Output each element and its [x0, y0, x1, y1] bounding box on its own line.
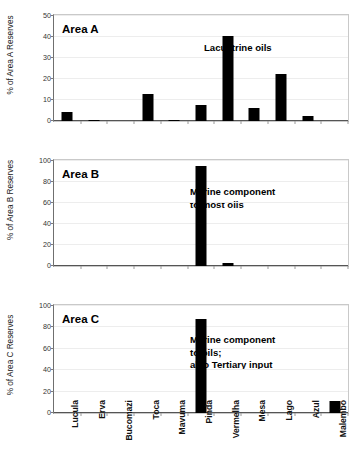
- x-axis-tick-mark: [160, 266, 161, 269]
- gridline: [54, 160, 348, 161]
- y-axis-tick-label: 80: [43, 322, 51, 331]
- y-axis-tick-mark: [51, 223, 54, 224]
- x-axis-tick-mark: [267, 266, 268, 269]
- gridline: [54, 305, 348, 306]
- y-axis-tick-mark: [51, 391, 54, 392]
- y-axis-tick-label: 20: [43, 240, 51, 249]
- y-axis-tick-mark: [51, 99, 54, 100]
- bar-toca: [142, 94, 153, 121]
- gridline: [54, 99, 348, 100]
- x-axis-tick-mark: [187, 121, 188, 124]
- bar-lucula: [62, 112, 73, 121]
- y-axis-tick-mark: [51, 348, 54, 349]
- chart-panel-area-a: % of Area A Reserves Area A Lacustrine o…: [0, 0, 353, 140]
- y-axis-tick-mark: [51, 36, 54, 37]
- y-axis-tick-mark: [51, 265, 54, 266]
- x-axis-tick-mark: [241, 121, 242, 124]
- x-axis-tick-mark: [241, 266, 242, 269]
- y-axis-tick-mark: [51, 369, 54, 370]
- y-axis-title-area-b: % of Area B Reserves: [6, 145, 18, 255]
- x-axis-category-labels: LuculaErvaBucomaziTocaMavumaPindaVermelh…: [53, 400, 349, 475]
- x-axis-label-azul: Azul: [311, 400, 321, 418]
- x-axis-tick-mark: [134, 266, 135, 269]
- x-axis-tick-mark: [294, 266, 295, 269]
- gridline: [54, 15, 348, 16]
- bar-vermelha: [222, 263, 233, 266]
- x-axis-label-lago: Lago: [284, 400, 294, 421]
- x-axis-tick-mark: [107, 266, 108, 269]
- x-axis-tick-mark: [214, 121, 215, 124]
- y-axis-tick-mark: [51, 78, 54, 79]
- y-axis-tick-mark: [51, 181, 54, 182]
- x-axis-label-erva: Erva: [97, 400, 107, 419]
- gridline: [54, 36, 348, 37]
- y-axis-tick-mark: [51, 202, 54, 203]
- y-axis-tick-label: 10: [43, 95, 51, 104]
- x-axis-label-vermelha: Vermelha: [231, 400, 241, 438]
- x-axis-tick-mark: [294, 121, 295, 124]
- x-axis-tick-mark: [160, 121, 161, 124]
- y-axis-tick-label: 20: [43, 74, 51, 83]
- x-axis-tick-mark: [348, 266, 349, 269]
- y-axis-tick-label: 40: [43, 219, 51, 228]
- x-axis-tick-mark: [348, 121, 349, 124]
- x-axis-label-mavuma: Mavuma: [177, 400, 187, 434]
- chart-panel-area-b: % of Area B Reserves Area B Marine compo…: [0, 145, 353, 285]
- y-axis-tick-label: 80: [43, 177, 51, 186]
- y-axis-tick-label: 60: [43, 198, 51, 207]
- gridline: [54, 57, 348, 58]
- y-axis-tick-label: 50: [43, 11, 51, 20]
- x-axis-tick-mark: [80, 121, 81, 124]
- y-axis-tick-mark: [51, 57, 54, 58]
- x-axis-label-toca: Toca: [151, 400, 161, 419]
- bar-pinda: [196, 319, 207, 413]
- bar-mesa: [249, 108, 260, 121]
- y-axis-tick-mark: [51, 160, 54, 161]
- panel-label-area-a: Area A: [62, 23, 99, 35]
- bar-vermelha: [222, 36, 233, 121]
- gridline: [54, 78, 348, 79]
- plot-area-area-b: Area B Marine component to most oils 020…: [53, 159, 349, 267]
- x-axis-tick-mark: [321, 266, 322, 269]
- x-axis-tick-mark: [107, 121, 108, 124]
- x-axis-tick-mark: [134, 121, 135, 124]
- annotation-area-a: Lacustrine oils: [204, 42, 272, 55]
- x-axis-tick-mark: [267, 121, 268, 124]
- x-axis-tick-mark: [214, 266, 215, 269]
- bar-pinda: [196, 166, 207, 266]
- bar-mavuma: [169, 120, 180, 122]
- x-axis-label-malembo: Malembo: [338, 400, 348, 437]
- x-axis-tick-mark: [187, 266, 188, 269]
- panel-label-area-c: Area C: [62, 313, 99, 325]
- y-axis-tick-mark: [51, 305, 54, 306]
- bar-azul: [302, 116, 313, 121]
- plot-area-area-c: Area C Marine component to oils; also Te…: [53, 304, 349, 414]
- y-axis-tick-label: 30: [43, 53, 51, 62]
- y-axis-tick-label: 20: [43, 386, 51, 395]
- stacked-bar-panel-figure: % of Area A Reserves Area A Lacustrine o…: [0, 0, 353, 475]
- plot-area-area-a: Area A Lacustrine oils 01020304050: [53, 14, 349, 122]
- y-axis-tick-label: 100: [39, 301, 51, 310]
- y-axis-tick-label: 40: [43, 32, 51, 41]
- y-axis-tick-mark: [51, 15, 54, 16]
- x-axis-tick-mark: [321, 121, 322, 124]
- y-axis-tick-label: 100: [39, 156, 51, 165]
- y-axis-tick-mark: [51, 244, 54, 245]
- x-axis-label-pinda: Pinda: [204, 400, 214, 423]
- y-axis-tick-label: 40: [43, 365, 51, 374]
- y-axis-title-area-c: % of Area C Reserves: [6, 300, 18, 410]
- x-axis-label-mesa: Mesa: [257, 400, 267, 422]
- y-axis-title-area-a: % of Area A Reserves: [6, 0, 18, 110]
- y-axis-tick-mark: [51, 326, 54, 327]
- bar-erva: [89, 120, 100, 122]
- x-axis-tick-mark: [80, 266, 81, 269]
- bar-lago: [276, 74, 287, 121]
- x-axis-label-bucomazi: Bucomazi: [124, 400, 134, 441]
- panel-label-area-b: Area B: [62, 168, 99, 180]
- y-axis-tick-label: 60: [43, 343, 51, 352]
- y-axis-tick-mark: [51, 120, 54, 121]
- x-axis-label-lucula: Lucula: [70, 400, 80, 428]
- bar-pinda: [196, 105, 207, 121]
